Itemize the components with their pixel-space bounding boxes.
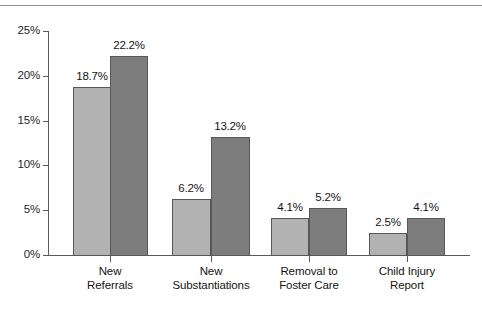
bar-value-removal-foster-care-light: 4.1% — [277, 202, 302, 214]
bar-removal-foster-care-dark[interactable] — [309, 208, 347, 256]
bar-value-new-referrals-light: 18.7% — [76, 71, 108, 83]
category-label-new-referrals: New Referrals — [87, 265, 133, 292]
x-tick-group-3 — [309, 256, 310, 262]
y-tick-mark-5 — [43, 210, 49, 211]
category-label-line2: Foster Care — [279, 279, 339, 293]
y-tick-label-20: 20% — [0, 70, 40, 82]
y-tick-mark-0 — [43, 255, 49, 256]
category-label-new-substantiations: New Substantiations — [172, 265, 249, 292]
bar-value-new-referrals-dark: 22.2% — [113, 40, 145, 52]
x-tick-group-4 — [407, 256, 408, 262]
y-tick-label-15: 15% — [0, 115, 40, 127]
bar-value-new-substantiations-dark: 13.2% — [214, 121, 246, 133]
category-label-line1: Removal to — [280, 265, 337, 277]
category-label-line2: Report — [379, 279, 435, 293]
category-label-line1: Child Injury — [379, 265, 435, 277]
bar-new-referrals-dark[interactable] — [110, 56, 148, 256]
bar-new-substantiations-light[interactable] — [172, 199, 211, 256]
bar-new-substantiations-dark[interactable] — [211, 137, 250, 256]
x-tick-group-1 — [110, 256, 111, 262]
bar-value-removal-foster-care-dark: 5.2% — [315, 192, 340, 204]
category-label-line1: New — [99, 265, 122, 277]
bar-value-new-substantiations-light: 6.2% — [178, 183, 203, 195]
x-tick-group-2 — [211, 256, 212, 262]
y-tick-mark-10 — [43, 165, 49, 166]
grouped-bar-chart: 0% 5% 10% 15% 20% 25% 18.7% 22.2% 6.2% 1… — [0, 0, 482, 309]
y-tick-label-0: 0% — [0, 249, 40, 261]
y-tick-mark-15 — [43, 121, 49, 122]
y-tick-mark-25 — [43, 31, 49, 32]
category-label-line1: New — [200, 265, 223, 277]
y-tick-label-5: 5% — [0, 204, 40, 216]
bar-new-referrals-light[interactable] — [73, 87, 111, 256]
category-label-line2: Substantiations — [172, 279, 249, 293]
y-tick-label-25: 25% — [0, 25, 40, 37]
category-label-removal-foster-care: Removal to Foster Care — [279, 265, 339, 292]
bar-child-injury-report-light[interactable] — [369, 233, 407, 256]
bar-child-injury-report-dark[interactable] — [407, 218, 445, 256]
y-tick-label-10: 10% — [0, 159, 40, 171]
bar-value-child-injury-report-light: 2.5% — [375, 217, 400, 229]
y-tick-mark-20 — [43, 76, 49, 77]
category-label-line2: Referrals — [87, 279, 133, 293]
bar-value-child-injury-report-dark: 4.1% — [413, 202, 438, 214]
bar-removal-foster-care-light[interactable] — [271, 218, 309, 256]
y-axis-line — [48, 31, 49, 256]
category-label-child-injury-report: Child Injury Report — [379, 265, 435, 292]
